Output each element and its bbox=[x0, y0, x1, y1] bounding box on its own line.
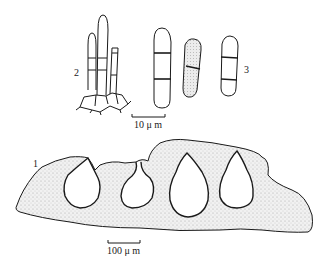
stroma-section bbox=[16, 139, 313, 232]
figure-plate bbox=[0, 0, 325, 261]
conidium-1 bbox=[154, 28, 171, 108]
conidiophore-cluster bbox=[76, 15, 131, 115]
figure-label-3: 3 bbox=[244, 64, 249, 75]
scale-label-large: 100 μ m bbox=[107, 245, 140, 256]
scale-label-small: 10 μ m bbox=[134, 119, 162, 130]
conidia-group bbox=[154, 28, 238, 108]
scale-bar-large bbox=[108, 240, 140, 243]
scale-bar-small bbox=[132, 114, 165, 117]
conidium-3 bbox=[221, 36, 238, 96]
figure-label-1: 1 bbox=[33, 158, 38, 169]
figure-label-2: 2 bbox=[74, 67, 79, 78]
stroma-outline bbox=[16, 139, 313, 232]
